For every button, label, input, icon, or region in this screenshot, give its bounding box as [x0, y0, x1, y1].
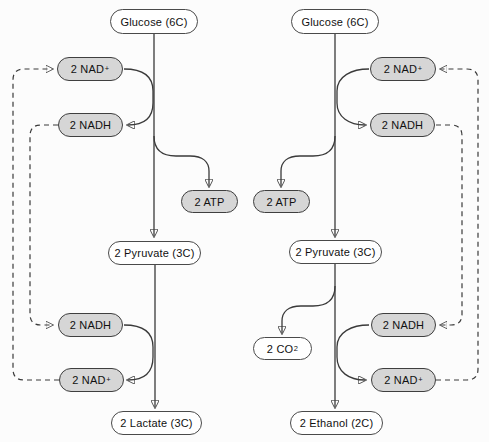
branch-co2-right — [282, 286, 335, 333]
node-label: 2 NADH — [70, 119, 112, 131]
dashed-nadh-carry-left — [30, 125, 58, 325]
node-label: 2 Lactate (3C) — [120, 417, 193, 429]
node-label: 2 Ethanol (2C) — [300, 417, 374, 429]
node-label: 2 ATP — [194, 196, 224, 208]
node-label: 2 NADH — [70, 319, 112, 331]
node-label: 2 NADH — [382, 119, 424, 131]
curve-nadh-to-nad-bottom-left — [124, 325, 153, 380]
branch-atp-right — [281, 136, 335, 186]
node-label: 2 NAD — [71, 63, 104, 75]
curve-nad-to-nadh-top-left — [124, 69, 153, 125]
node-nad-plus-top-right: 2 NAD+ — [370, 57, 436, 81]
dashed-nad-recycle-right — [436, 69, 478, 380]
node-label: 2 ATP — [266, 196, 296, 208]
node-label: 2 Pyruvate (3C) — [295, 246, 375, 258]
node-label: 2 NAD — [384, 63, 417, 75]
dashed-nadh-carry-right — [436, 125, 462, 325]
node-nad-plus-bottom-right: 2 NAD+ — [371, 368, 436, 392]
node-nadh-bottom-left: 2 NADH — [58, 313, 123, 337]
node-atp-left: 2 ATP — [181, 190, 238, 213]
node-nadh-top-left: 2 NADH — [58, 113, 123, 137]
node-label: 2 NAD — [72, 374, 105, 386]
node-nadh-top-right: 2 NADH — [370, 113, 435, 137]
branch-atp-left — [154, 136, 209, 186]
curve-nad-to-nadh-top-right — [337, 69, 369, 125]
node-label: Glucose (6C) — [301, 16, 368, 28]
node-nad-plus-top-left: 2 NAD+ — [57, 57, 123, 81]
node-label: 2 NADH — [383, 319, 425, 331]
node-lactate-left: 2 Lactate (3C) — [111, 411, 202, 435]
node-atp-right: 2 ATP — [253, 190, 310, 213]
node-ethanol-right: 2 Ethanol (2C) — [290, 411, 383, 435]
node-nad-plus-bottom-left: 2 NAD+ — [59, 368, 124, 392]
dashed-nad-recycle-left — [13, 69, 59, 380]
node-co2-right: 2 CO2 — [253, 337, 312, 360]
node-label: Glucose (6C) — [120, 16, 187, 28]
node-nadh-bottom-right: 2 NADH — [371, 313, 436, 337]
node-label: 2 Pyruvate (3C) — [114, 247, 194, 259]
curve-nadh-to-nad-bottom-right — [337, 325, 369, 380]
node-label: 2 NAD — [384, 374, 417, 386]
node-pyruvate-left: 2 Pyruvate (3C) — [108, 241, 201, 265]
fermentation-pathways-figure: Glucose (6C) 2 NAD+ 2 NADH 2 ATP 2 Pyruv… — [0, 0, 489, 442]
node-label: 2 CO — [267, 343, 293, 355]
node-pyruvate-right: 2 Pyruvate (3C) — [289, 240, 382, 264]
node-glucose-left: Glucose (6C) — [110, 9, 198, 34]
node-glucose-right: Glucose (6C) — [291, 9, 379, 34]
